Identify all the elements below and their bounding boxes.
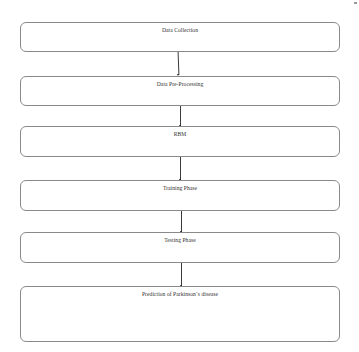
step-training-phase: Training Phase (20, 180, 340, 211)
arrow-connector (180, 106, 181, 126)
step-data-collection: Data Collection (20, 22, 340, 52)
step-testing-phase: Testing Phase (20, 232, 340, 263)
arrow-connector (178, 52, 180, 75)
step-label: Prediction of Parkinson`s disease (21, 291, 339, 297)
step-label: Training Phase (21, 185, 339, 191)
page-corner-mark (354, 2, 357, 4)
arrow-connector (181, 211, 182, 232)
step-prediction-of-parkinsons-disease: Prediction of Parkinson`s disease (20, 286, 340, 342)
step-data-pre-processing: Data Pre-Processing (20, 76, 340, 106)
arrow-connector (181, 263, 182, 286)
step-label: Testing Phase (21, 237, 339, 243)
step-label: Data Collection (21, 27, 339, 33)
step-label: Data Pre-Processing (21, 81, 339, 87)
arrow-connector (180, 157, 181, 180)
step-rbm: RBM (20, 126, 340, 157)
step-label: RBM (21, 131, 339, 137)
